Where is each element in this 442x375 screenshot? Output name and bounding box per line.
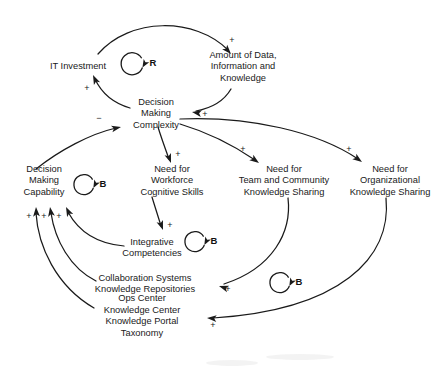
node-label-line: Decision xyxy=(138,97,174,107)
node-label-line: Knowledge Sharing xyxy=(350,187,431,197)
polarity-sign-positive: + xyxy=(240,144,245,154)
node-label-line: Complexity xyxy=(133,120,179,130)
node-label-line: IT Investment xyxy=(50,61,107,71)
node-label-line: Taxonomy xyxy=(121,328,164,338)
polarity-sign-negative: − xyxy=(96,113,101,123)
polarity-sign-positive: + xyxy=(41,211,46,221)
node-decision_making_capability: DecisionMakingCapability xyxy=(24,164,65,197)
node-label-line: Need for xyxy=(266,164,302,174)
polarity-sign-positive: + xyxy=(84,83,89,93)
loop-letter-R: R xyxy=(150,57,157,68)
polarity-sign-positive: + xyxy=(56,211,61,221)
node-label-line: Competencies xyxy=(122,248,182,258)
loop-letter-B: B xyxy=(296,276,303,287)
node-label-line: Team and Community xyxy=(239,175,330,185)
node-label-line: Knowledge Portal xyxy=(106,316,179,326)
polarity-sign-positive: + xyxy=(210,320,215,330)
polarity-sign-positive: + xyxy=(225,284,230,294)
node-label-line: Cognitive Skills xyxy=(140,187,203,197)
node-label-line: Making xyxy=(141,108,171,118)
polarity-sign-positive: + xyxy=(346,144,351,154)
causal-loop-diagram: +++−+++++++++ RBBB IT InvestmentAmount o… xyxy=(0,0,442,375)
loop-letter-B: B xyxy=(100,178,107,189)
node-label-line: Knowledge xyxy=(220,73,266,83)
diagram-canvas: +++−+++++++++ RBBB IT InvestmentAmount o… xyxy=(0,0,442,375)
node-label-line: Need for xyxy=(154,164,190,174)
node-collaboration_systems: Collaboration SystemsKnowledge Repositor… xyxy=(95,273,196,294)
polarity-sign-positive: + xyxy=(26,211,31,221)
node-integrative_competencies: IntegrativeCompetencies xyxy=(122,237,182,258)
polarity-sign-positive: + xyxy=(175,149,180,159)
node-label-line: Information and xyxy=(211,61,276,71)
node-label-line: Integrative xyxy=(130,237,173,247)
polarity-sign-positive: + xyxy=(229,35,234,45)
node-label-line: Making xyxy=(29,175,59,185)
node-it_investment: IT Investment xyxy=(50,61,107,71)
node-label-line: Ops Center xyxy=(118,293,166,303)
polarity-sign-positive: + xyxy=(167,220,172,230)
polarity-sign-positive: + xyxy=(202,109,207,119)
node-label-line: Knowledge Center xyxy=(104,305,181,315)
node-label-line: Capability xyxy=(24,187,65,197)
node-label-line: Organizational xyxy=(360,175,420,185)
loop-letter-B: B xyxy=(211,235,218,246)
node-label-line: Amount of Data, xyxy=(209,50,276,60)
node-label-line: Collaboration Systems xyxy=(98,273,191,283)
node-label-line: Workforce xyxy=(151,175,193,185)
node-label-line: Decision xyxy=(26,164,62,174)
node-label-line: Need for xyxy=(372,164,408,174)
node-label-line: Knowledge Sharing xyxy=(244,187,325,197)
